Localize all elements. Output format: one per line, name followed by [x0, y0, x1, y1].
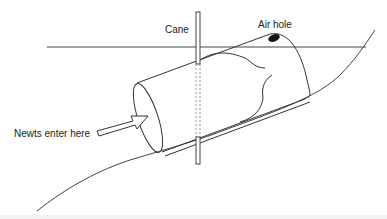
entry-label: Newts enter here	[14, 128, 91, 139]
air-hole-label: Air hole	[258, 19, 292, 30]
newt-trap-diagram: Cane Air hole Newts enter here	[0, 0, 387, 219]
cane-label: Cane	[165, 24, 189, 35]
bottle-trap	[127, 34, 310, 156]
bottom-border	[0, 215, 387, 219]
cane	[196, 12, 200, 164]
